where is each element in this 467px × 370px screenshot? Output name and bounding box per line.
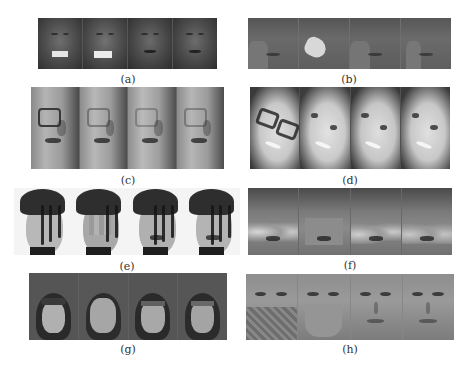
caption-g: (g) [120, 343, 136, 356]
image-strip-h [246, 274, 454, 340]
scarf [246, 307, 297, 340]
frame-g-1 [29, 273, 79, 340]
occluder-bar [94, 51, 112, 58]
caption-d: (d) [342, 174, 358, 187]
image-strip-a [38, 18, 217, 69]
frame-c-4 [177, 87, 225, 169]
hand [350, 41, 370, 69]
caption-e: (e) [119, 260, 134, 273]
gray-patch [305, 304, 342, 337]
frame-d-2 [300, 87, 350, 169]
frame-f-2 [299, 188, 350, 255]
caption-f: (f) [344, 259, 357, 272]
frame-b-3 [350, 18, 401, 69]
image-strip-b [248, 18, 451, 69]
frame-d-1 [250, 87, 300, 169]
caption-h: (h) [342, 343, 358, 356]
hood-band [41, 298, 66, 305]
frame-f-4 [402, 188, 452, 255]
image-strip-d [250, 87, 450, 169]
frame-g-3 [129, 273, 179, 340]
caption-c: (c) [121, 174, 136, 187]
frame-c-1 [31, 87, 80, 169]
frame-g-4 [178, 273, 227, 340]
frame-c-3 [128, 87, 177, 169]
frame-f-1 [248, 188, 299, 255]
frame-g-2 [79, 273, 129, 340]
caption-a: (a) [120, 73, 135, 86]
hand [248, 41, 268, 69]
frame-h-2 [298, 274, 350, 340]
frame-e-3 [127, 188, 184, 255]
image-strip-e [14, 188, 240, 255]
frame-f-3 [351, 188, 402, 255]
frame-e-1 [14, 188, 71, 255]
frame-h-3 [351, 274, 403, 340]
frame-a-1 [38, 18, 83, 69]
frame-e-4 [184, 188, 241, 255]
occluder-bar [52, 51, 68, 57]
caption-b: (b) [341, 73, 357, 86]
frame-a-3 [128, 18, 173, 69]
image-strip-f [248, 188, 452, 255]
frame-d-3 [351, 87, 401, 169]
image-strip-c [31, 87, 224, 169]
frame-b-1 [248, 18, 299, 69]
frame-h-1 [246, 274, 298, 340]
frame-b-2 [299, 18, 350, 69]
frame-e-2 [71, 188, 128, 255]
hood-band [191, 301, 214, 306]
frame-b-4 [401, 18, 451, 69]
frame-h-4 [403, 274, 454, 340]
image-strip-g [29, 273, 227, 340]
hood-band [141, 301, 164, 306]
frame-d-4 [401, 87, 450, 169]
frame-a-2 [83, 18, 128, 69]
frame-a-4 [173, 18, 217, 69]
frame-c-2 [80, 87, 129, 169]
